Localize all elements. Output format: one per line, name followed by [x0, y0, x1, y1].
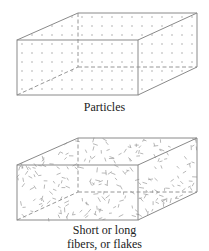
particle-dot	[181, 25, 182, 26]
fiber-stroke	[120, 186, 122, 189]
fiber-stroke	[22, 184, 24, 187]
particles-caption: Particles	[0, 100, 209, 114]
fiber-stroke	[155, 178, 158, 180]
fiber-stroke	[181, 181, 183, 183]
fiber-stroke	[58, 184, 59, 186]
particle-dot	[91, 43, 92, 44]
particle-dot	[81, 25, 82, 26]
fiber-stroke	[62, 177, 65, 178]
particle-dot	[71, 88, 72, 89]
fiber-stroke	[93, 138, 94, 142]
fiber-stroke	[132, 216, 135, 217]
particle-dot	[61, 52, 62, 53]
fiber-stroke	[29, 167, 31, 169]
particle-dot	[121, 16, 122, 17]
particle-dot	[121, 43, 122, 44]
fiber-stroke	[106, 142, 108, 145]
particle-dot	[181, 34, 182, 35]
particle-dot	[81, 16, 82, 17]
fiber-stroke	[34, 186, 36, 189]
fiber-stroke	[170, 199, 171, 203]
particle-dot	[101, 70, 102, 71]
fiber-stroke	[188, 186, 190, 187]
fiber-stroke	[178, 176, 179, 178]
caption-text: Particles	[84, 100, 125, 114]
particle-dot	[131, 16, 132, 17]
particle-dot	[41, 79, 42, 80]
particle-dot	[71, 79, 72, 80]
particle-dot	[111, 25, 112, 26]
particle-dot	[111, 70, 112, 71]
particle-dot	[191, 16, 192, 17]
fiber-stroke	[167, 152, 169, 155]
fiber-stroke	[66, 186, 70, 188]
fiber-stroke	[95, 211, 96, 214]
fiber-stroke	[102, 197, 105, 200]
fiber-stroke	[94, 194, 98, 195]
fiber-stroke	[57, 167, 59, 169]
right-face-edges	[138, 138, 197, 220]
particle-dot	[91, 16, 92, 17]
fiber-stroke	[156, 198, 157, 200]
fiber-stroke	[96, 180, 100, 181]
fiber-stroke	[26, 171, 28, 174]
fiber-stroke	[42, 159, 43, 161]
particle-dot	[151, 61, 152, 62]
particle-dot	[131, 34, 132, 35]
particle-dot	[101, 79, 102, 80]
particle-dot	[31, 61, 32, 62]
particle-dot	[131, 79, 132, 80]
fiber-stroke	[34, 199, 36, 201]
diagram-canvas	[0, 0, 209, 251]
particle-dot	[171, 16, 172, 17]
particle-dot	[151, 43, 152, 44]
particle-dot	[171, 70, 172, 71]
particle-dot	[81, 79, 82, 80]
fiber-stroke	[59, 207, 61, 208]
fiber-stroke	[136, 151, 137, 153]
fiber-stroke	[107, 150, 109, 151]
fiber-box	[17, 138, 197, 221]
fiber-stroke	[192, 162, 194, 163]
particle-dot	[71, 61, 72, 62]
particle-dot	[121, 61, 122, 62]
fiber-stroke	[154, 146, 158, 147]
fiber-stroke	[158, 159, 159, 162]
fiber-stroke	[99, 218, 102, 219]
fiber-stroke	[185, 157, 187, 159]
particle-dot	[111, 43, 112, 44]
caption-line-2: fibers, or flakes	[0, 237, 209, 251]
particle-dot	[131, 70, 132, 71]
particle-dot	[101, 52, 102, 53]
particle-dot	[101, 61, 102, 62]
particle-dot	[151, 79, 152, 80]
particle-dot	[131, 52, 132, 53]
particle-dot	[61, 61, 62, 62]
fiber-stroke	[30, 187, 34, 189]
fiber-stroke	[111, 173, 115, 175]
particle-dot	[181, 70, 182, 71]
particle-dot	[151, 52, 152, 53]
top-face-edges	[17, 13, 197, 40]
particle-dot	[51, 70, 52, 71]
fiber-stroke	[67, 167, 68, 169]
fiber-stroke	[183, 171, 186, 173]
particle-dot	[181, 52, 182, 53]
fiber-stroke	[139, 146, 141, 148]
fibers-caption: Short or long fibers, or flakes	[0, 223, 209, 251]
particle-dot	[141, 70, 142, 71]
hidden-edge-bottom-left	[17, 67, 78, 95]
fiber-stroke	[86, 216, 88, 218]
fiber-stroke	[143, 182, 147, 183]
particle-dot	[141, 43, 142, 44]
fiber-stroke	[79, 167, 83, 168]
particle-dot	[161, 52, 162, 53]
fiber-stroke	[92, 156, 95, 158]
fiber-stroke	[86, 150, 87, 152]
particle-dot	[51, 88, 52, 89]
fiber-stroke	[130, 168, 133, 172]
fiber-stroke	[59, 152, 60, 154]
fiber-stroke	[160, 195, 164, 196]
particle-dot	[101, 43, 102, 44]
particle-dot	[51, 52, 52, 53]
